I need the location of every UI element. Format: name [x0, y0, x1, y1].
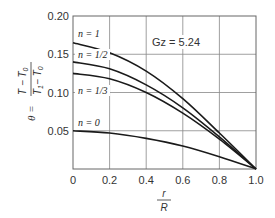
x-tick-label: 0.6: [175, 174, 190, 186]
label-n1: n = 1: [78, 28, 100, 39]
label-n-third: n = 1/3: [78, 85, 108, 96]
x-tick-label: 0: [70, 174, 76, 186]
label-n-half: n = 1/2: [78, 49, 108, 60]
x-tick-label: 0.2: [102, 174, 117, 186]
x-tick-label: 0.4: [139, 174, 154, 186]
y-tick-label: 0.10: [48, 87, 69, 99]
x-axis-ticks: 00.20.40.60.81.0: [70, 174, 264, 186]
data-curves: [73, 43, 256, 169]
svg-text:r: r: [162, 188, 166, 199]
curve-n-0: [73, 131, 256, 169]
y-tick-label: 0.20: [48, 10, 69, 22]
x-tick-label: 0.8: [212, 174, 227, 186]
label-n0: n = 0: [78, 117, 100, 128]
ylabel-denominator: T1− T0: [32, 66, 44, 95]
x-tick-label: 1.0: [248, 174, 263, 186]
gz-annotation: Gz = 5.24: [152, 36, 200, 48]
svg-text:R: R: [160, 202, 167, 213]
chart: 00.20.40.60.81.0 0.050.100.150.20 Gz = 5…: [0, 0, 275, 218]
ylabel-numerator: T − T0: [17, 67, 29, 95]
curve-n-1-2: [73, 62, 256, 169]
curve-n-1: [73, 43, 256, 169]
y-axis-ticks: 0.050.100.150.20: [48, 10, 69, 137]
x-axis-label: r R: [157, 188, 171, 213]
y-tick-label: 0.05: [48, 125, 69, 137]
y-tick-label: 0.15: [48, 48, 69, 60]
y-axis-label: θ = T − T0 T1− T0: [17, 62, 44, 121]
svg-text:θ =: θ =: [25, 105, 37, 121]
